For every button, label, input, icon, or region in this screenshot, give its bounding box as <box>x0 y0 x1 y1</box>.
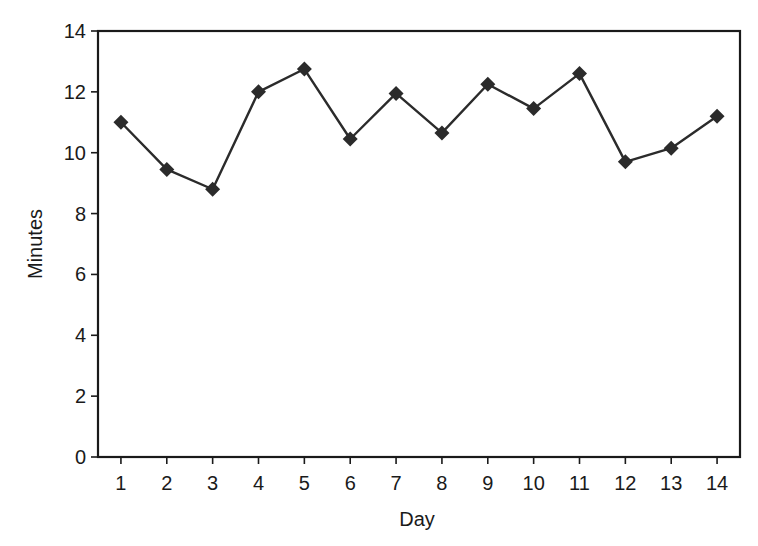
x-tick-label: 12 <box>614 472 636 494</box>
y-axis: 02468101214 <box>64 20 98 468</box>
x-tick-label: 3 <box>207 472 218 494</box>
y-tick-label: 10 <box>64 142 86 164</box>
x-tick-label: 7 <box>391 472 402 494</box>
data-series <box>113 62 724 197</box>
x-tick-label: 5 <box>299 472 310 494</box>
plot-area <box>98 31 740 457</box>
x-tick-label: 10 <box>523 472 545 494</box>
y-tick-label: 2 <box>75 385 86 407</box>
x-tick-label: 2 <box>161 472 172 494</box>
data-point-diamond-icon <box>664 141 679 156</box>
data-point-diamond-icon <box>710 109 725 124</box>
y-tick-label: 0 <box>75 446 86 468</box>
x-tick-label: 8 <box>436 472 447 494</box>
y-tick-label: 8 <box>75 203 86 225</box>
x-tick-label: 9 <box>482 472 493 494</box>
chart-canvas: 02468101214 1234567891011121314 Day Minu… <box>0 0 758 546</box>
series-line <box>121 69 717 189</box>
y-tick-label: 12 <box>64 81 86 103</box>
plot-border <box>98 31 740 457</box>
x-tick-label: 13 <box>660 472 682 494</box>
line-chart: 02468101214 1234567891011121314 Day Minu… <box>0 0 758 546</box>
y-tick-label: 4 <box>75 324 86 346</box>
x-tick-label: 1 <box>115 472 126 494</box>
data-point-diamond-icon <box>251 84 266 99</box>
y-tick-label: 14 <box>64 20 86 42</box>
x-tick-label: 4 <box>253 472 264 494</box>
data-point-diamond-icon <box>618 154 633 169</box>
x-axis: 1234567891011121314 <box>115 457 728 494</box>
x-axis-label: Day <box>399 508 435 530</box>
x-tick-label: 14 <box>706 472 728 494</box>
x-tick-label: 6 <box>345 472 356 494</box>
data-point-diamond-icon <box>205 182 220 197</box>
x-tick-label: 11 <box>569 472 590 494</box>
y-axis-label: Minutes <box>24 209 46 279</box>
data-point-diamond-icon <box>297 62 312 77</box>
y-tick-label: 6 <box>75 263 86 285</box>
